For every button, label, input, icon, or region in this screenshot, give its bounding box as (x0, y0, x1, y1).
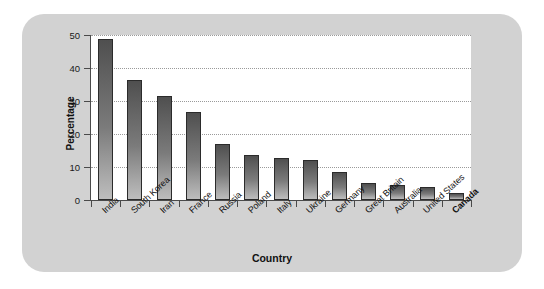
bar (127, 80, 142, 200)
bar (303, 160, 318, 200)
y-axis-tick-label: 0 (56, 195, 80, 206)
bar (274, 158, 289, 200)
x-axis-tick (179, 200, 180, 207)
y-axis-tick-label: 10 (56, 162, 80, 173)
x-axis-tick (296, 200, 297, 207)
x-axis-tick (91, 200, 92, 207)
bar-series (91, 35, 471, 200)
y-axis-title: Percentage (65, 97, 76, 151)
bar (186, 112, 201, 200)
bar (215, 144, 230, 200)
chart-figure: 01020304050 IndiaSouth KoreaIranFranceRu… (0, 0, 544, 289)
bar (244, 155, 259, 200)
x-axis-title: Country (0, 252, 544, 264)
bar (98, 39, 113, 200)
y-axis-tick-label: 40 (56, 63, 80, 74)
y-axis-tick-label: 50 (56, 30, 80, 41)
